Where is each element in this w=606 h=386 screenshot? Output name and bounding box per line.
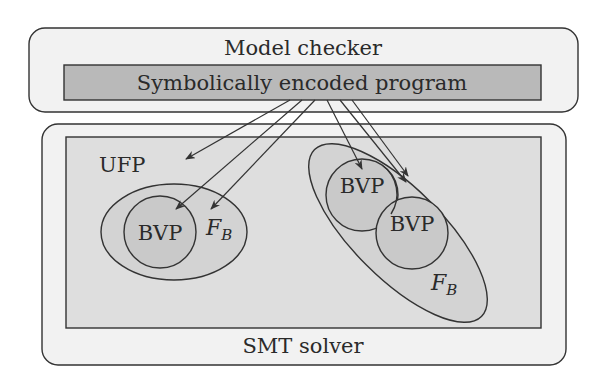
right-bvp-label-1: BVP [340,174,385,198]
program-box: Symbolically encoded program [64,65,541,100]
program-label: Symbolically encoded program [137,71,467,95]
diagram-canvas: Model checker Symbolically encoded progr… [0,0,606,386]
left-bvp-label: BVP [138,221,183,245]
left-fb-group: BVP FB [101,184,247,280]
ufp-label: UFP [99,153,145,177]
right-bvp-label-2: BVP [390,212,435,236]
model-checker-label: Model checker [224,36,383,60]
smt-solver-label: SMT solver [242,334,364,358]
